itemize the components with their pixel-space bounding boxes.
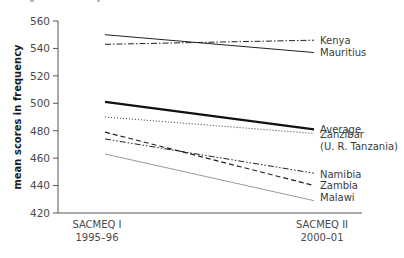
x-category-sublabel: 2000–01 <box>300 232 343 243</box>
chart: mean scores in frequency 420440460480500… <box>0 0 404 258</box>
clipped-title-fragment <box>30 0 100 2</box>
series-label-malawi: Malawi <box>320 192 355 203</box>
series-label-namibia: Namibia <box>320 169 361 180</box>
series-label-mauritius: Mauritius <box>320 47 366 58</box>
y-tick-label: 500 <box>30 97 50 109</box>
series-label-zambia: Zambia <box>320 180 358 191</box>
y-tick-label: 480 <box>30 125 50 137</box>
y-tick-label: 440 <box>30 179 50 191</box>
x-category-label: SACMEQ II <box>296 219 348 230</box>
x-category-labels: SACMEQ I1995–96SACMEQ II2000–01 <box>72 219 348 243</box>
x-category-sublabel: 1995–96 <box>75 232 118 243</box>
series-lines <box>105 35 314 201</box>
x-category-label: SACMEQ I <box>72 219 121 230</box>
y-tick-label: 420 <box>30 207 50 219</box>
series-label-zanzibar-u-r-tanzania: (U. R. Tanzania) <box>320 141 398 152</box>
y-tick-label: 540 <box>30 42 50 54</box>
series-line-namibia <box>105 139 314 173</box>
series-label-kenya: Kenya <box>320 35 351 46</box>
series-label-zanzibar-u-r-tanzania: Zanzibar <box>320 129 365 140</box>
y-tick-label: 460 <box>30 152 50 164</box>
series-labels: KenyaMauritiusAverageZanzibar(U. R. Tanz… <box>320 35 398 204</box>
y-ticks: 420440460480500520540560 <box>30 15 58 219</box>
series-line-malawi <box>105 154 314 201</box>
y-axis-title: mean scores in frequency <box>12 44 23 190</box>
y-tick-label: 520 <box>30 70 50 82</box>
series-line-average <box>105 102 314 129</box>
y-tick-label: 560 <box>30 15 50 27</box>
axes <box>58 21 362 213</box>
